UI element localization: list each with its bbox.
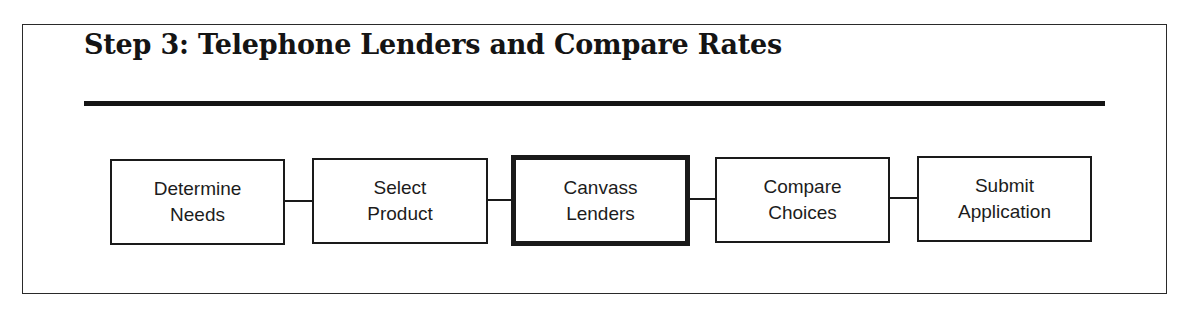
diagram-title: Step 3: Telephone Lenders and Compare Ra… [84, 29, 782, 60]
step-label-line2: Lenders [566, 201, 635, 227]
step-compare-choices: Compare Choices [715, 157, 890, 243]
connector [285, 200, 312, 202]
step-submit-application: Submit Application [917, 156, 1092, 242]
step-select-product: Select Product [312, 158, 488, 244]
connector [890, 197, 917, 199]
step-label-line1: Compare [763, 174, 841, 200]
step-canvass-lenders-active: Canvass Lenders [511, 155, 690, 246]
step-label-line1: Canvass [564, 175, 638, 201]
step-label-line1: Determine [154, 176, 242, 202]
step-label-line1: Select [374, 175, 427, 201]
connector [488, 199, 511, 201]
connector [690, 198, 715, 200]
step-label-line2: Choices [768, 200, 837, 226]
step-label-line2: Needs [170, 202, 225, 228]
step-determine-needs: Determine Needs [110, 159, 285, 245]
step-label-line1: Submit [975, 173, 1034, 199]
step-label-line2: Application [958, 199, 1051, 225]
title-rule [84, 101, 1105, 106]
step-label-line2: Product [367, 201, 432, 227]
